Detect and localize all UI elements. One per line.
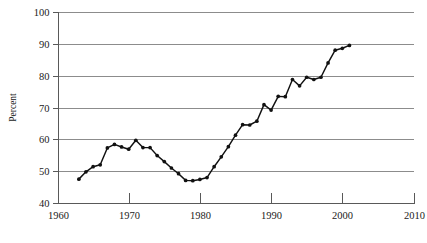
data-point (291, 78, 295, 82)
y-tick-label-80: 80 (39, 71, 50, 82)
data-point (227, 145, 231, 149)
chart-background (0, 0, 427, 243)
data-point (333, 48, 337, 52)
y-tick-label-90: 90 (39, 39, 50, 50)
data-point (134, 138, 138, 142)
chart-figure: 196019701980199020002010 405060708090100… (0, 0, 427, 243)
data-point (98, 163, 102, 167)
data-point (120, 145, 124, 149)
data-point (255, 119, 259, 123)
data-point (219, 155, 223, 159)
data-point (283, 95, 287, 99)
data-point (248, 123, 252, 127)
y-axis-title: Percent (8, 93, 18, 122)
data-point (326, 61, 330, 65)
data-point (105, 146, 109, 150)
data-point (319, 75, 323, 79)
y-tick-label-60: 60 (39, 134, 50, 145)
x-tick-label-1980: 1980 (190, 210, 211, 221)
data-point (234, 133, 238, 137)
data-point (241, 123, 245, 127)
data-point (77, 177, 81, 181)
data-point (184, 179, 188, 183)
data-point (162, 160, 166, 164)
y-tick-label-70: 70 (39, 103, 50, 114)
y-tick-label-100: 100 (34, 7, 50, 18)
data-point (205, 176, 209, 180)
data-point (348, 44, 352, 48)
data-point (276, 95, 280, 99)
y-tick-label-40: 40 (39, 198, 50, 209)
data-point (198, 178, 202, 182)
data-point (155, 154, 159, 158)
data-point (312, 78, 316, 82)
x-tick-label-1990: 1990 (261, 210, 282, 221)
data-point (305, 75, 309, 79)
data-point (170, 166, 174, 170)
data-point (262, 103, 266, 107)
data-point (212, 165, 216, 169)
data-point (298, 84, 302, 88)
data-point (84, 170, 88, 174)
data-point (127, 147, 131, 151)
data-point (177, 172, 181, 176)
x-tick-label-2000: 2000 (332, 210, 353, 221)
x-tick-label-1970: 1970 (119, 210, 140, 221)
data-point (191, 179, 195, 183)
data-point (141, 146, 145, 150)
y-tick-label-50: 50 (39, 166, 50, 177)
data-point (113, 143, 117, 147)
data-point (91, 165, 95, 169)
x-tick-label-1960: 1960 (48, 210, 69, 221)
data-point (269, 108, 273, 112)
data-point (340, 46, 344, 50)
line-chart: 196019701980199020002010 405060708090100… (0, 0, 427, 243)
data-point (148, 146, 152, 150)
x-tick-label-2010: 2010 (404, 210, 425, 221)
